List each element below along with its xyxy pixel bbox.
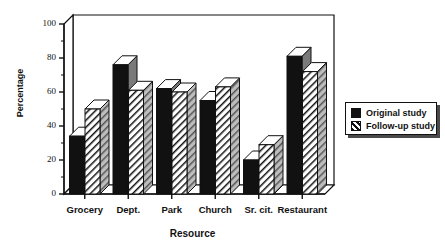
bar-sr-cit--followup [259, 136, 283, 194]
bar-grocery-followup [85, 100, 109, 194]
bar-restaurant-followup [303, 63, 327, 194]
solid-black-swatch [351, 108, 361, 118]
chart-legend: Original study Follow-up study [345, 102, 437, 135]
y-tick-label: 80 [30, 52, 56, 62]
bar-park-followup [172, 83, 196, 194]
legend-label-follow-up-study: Follow-up study [366, 121, 435, 131]
bar-church-followup [216, 78, 240, 194]
legend-item-follow-up-study: Follow-up study [351, 119, 435, 132]
y-tick-label: 100 [30, 18, 56, 28]
legend-label-original-study: Original study [366, 108, 427, 118]
hatched-swatch [351, 121, 361, 131]
bar-dept--followup [129, 81, 153, 194]
bar-chart: Percentage Resource 020406080100 Grocery… [0, 0, 445, 249]
y-tick-label: 60 [30, 86, 56, 96]
y-tick-label: 20 [30, 154, 56, 164]
y-tick-label: 40 [30, 120, 56, 130]
legend-item-original-study: Original study [351, 106, 427, 119]
y-axis-title: Percentage [15, 43, 25, 143]
x-axis-title: Resource [55, 228, 330, 239]
y-tick-label: 0 [30, 188, 56, 198]
x-tick-label: Restaurant [267, 204, 337, 215]
